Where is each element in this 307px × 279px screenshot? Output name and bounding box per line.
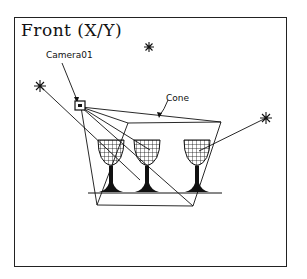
light-target-line: [40, 86, 140, 180]
light-icon[interactable]: [144, 42, 154, 52]
camera-leader: [62, 63, 79, 103]
camera-icon[interactable]: [75, 101, 85, 110]
scene-drawing: [0, 0, 307, 279]
wine-glass[interactable]: [98, 140, 124, 192]
